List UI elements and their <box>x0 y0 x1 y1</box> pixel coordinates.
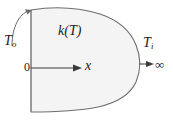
x-axis-label: x <box>85 59 91 73</box>
interior-temperature-label: Ti <box>143 36 153 50</box>
surface-temperature-subscript: o <box>12 39 16 49</box>
interior-temperature-symbol: T <box>143 35 151 50</box>
infinity-label: ∞ <box>155 58 164 71</box>
interior-temperature-subscript: i <box>151 41 153 51</box>
conductivity-label: k(T) <box>58 24 81 38</box>
interior-temperature-arrowhead-icon <box>146 61 154 67</box>
surface-temperature-label: To <box>4 34 16 48</box>
surface-temperature-symbol: T <box>4 33 12 48</box>
thermal-conduction-diagram: k(T) To Ti 0 x ∞ <box>0 0 173 122</box>
origin-label: 0 <box>24 61 30 73</box>
